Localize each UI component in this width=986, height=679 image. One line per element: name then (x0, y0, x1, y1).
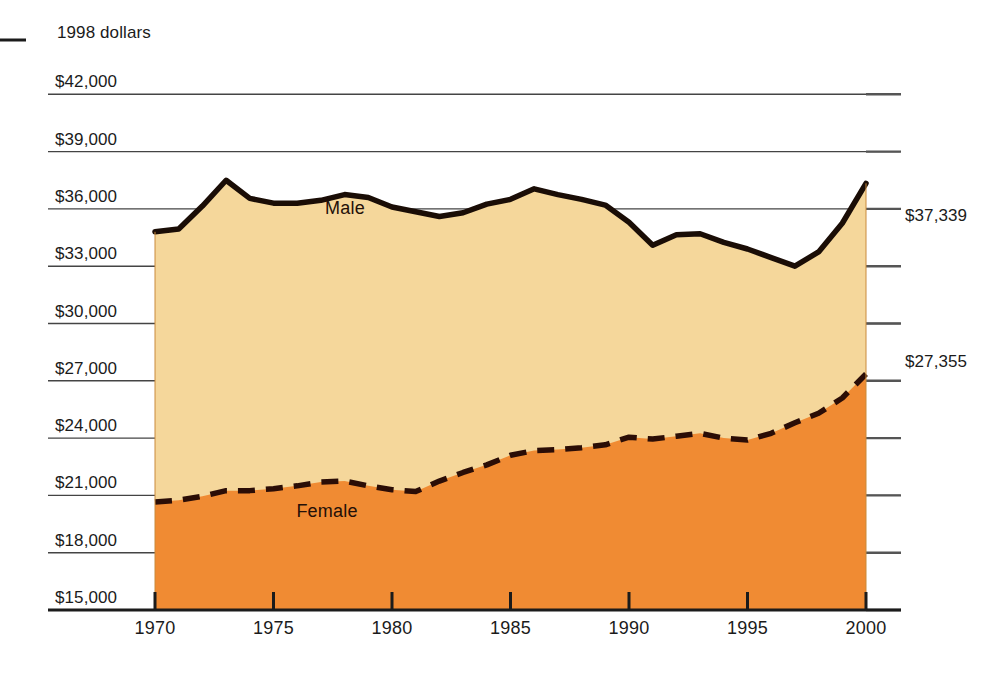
y-tick-label: $18,000 (55, 531, 117, 551)
y-tick-label: $30,000 (55, 302, 117, 322)
series-label-female: Female (296, 501, 357, 522)
x-tick-label: 2000 (846, 618, 887, 639)
y-tick-label: $21,000 (55, 473, 117, 493)
y-tick-label: $24,000 (55, 416, 117, 436)
y-tick-label: $33,000 (55, 244, 117, 264)
y-tick-label: $39,000 (55, 130, 117, 150)
x-tick-label: 1985 (490, 618, 531, 639)
y-tick-label: $36,000 (55, 187, 117, 207)
end-label-male: $37,339 (905, 206, 967, 226)
y-tick-label: $15,000 (55, 588, 117, 608)
x-tick-label: 1995 (727, 618, 768, 639)
x-tick-label: 1980 (372, 618, 413, 639)
series-label-male: Male (325, 198, 365, 219)
x-tick-label: 1990 (609, 618, 650, 639)
chart-figure: 1998 dollars $15,000$18,000$21,000$24,00… (0, 0, 986, 679)
y-tick-label: $27,000 (55, 359, 117, 379)
chart-canvas (0, 0, 986, 679)
x-tick-label: 1970 (135, 618, 176, 639)
units-note: 1998 dollars (57, 23, 151, 43)
area-fills-group (155, 180, 866, 610)
x-tick-label: 1975 (253, 618, 294, 639)
end-label-female: $27,355 (905, 352, 967, 372)
y-tick-label: $42,000 (55, 72, 117, 92)
